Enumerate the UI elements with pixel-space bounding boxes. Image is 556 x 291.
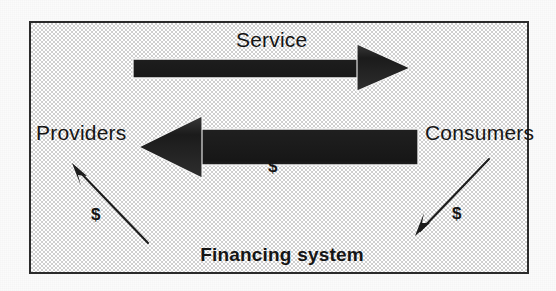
figure-page: Service Providers Consumers $ $ $ Financ…: [0, 0, 556, 291]
dollar-label-center: $: [268, 158, 277, 175]
dollar-label-left: $: [91, 206, 100, 223]
diagram-canvas: Service Providers Consumers $ $ $ Financ…: [31, 23, 527, 272]
service-label: Service: [236, 29, 307, 50]
arrow-layer: [31, 23, 531, 276]
dollar-label-right: $: [452, 205, 461, 222]
service-arrow: [133, 44, 410, 91]
consumers-to-financing-arrow: [415, 159, 489, 236]
diagram-frame: Service Providers Consumers $ $ $ Financ…: [29, 21, 529, 274]
providers-label: Providers: [36, 122, 127, 143]
payment-arrow: [139, 116, 418, 178]
consumers-label: Consumers: [425, 122, 534, 143]
financing-system-label: Financing system: [192, 245, 372, 264]
financing-to-providers-arrow: [72, 163, 148, 243]
